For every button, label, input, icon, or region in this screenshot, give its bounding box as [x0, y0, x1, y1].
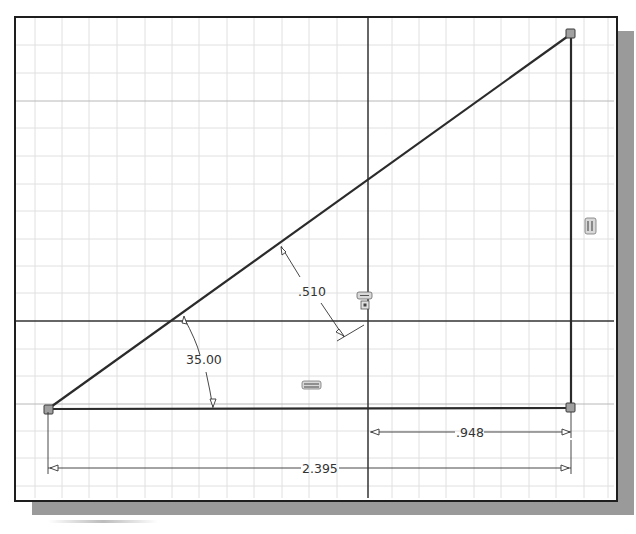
vertical-constraint-icon[interactable] — [585, 218, 596, 234]
dimension-arrowhead-icon — [561, 465, 569, 471]
dimension-arrowhead-icon — [371, 429, 379, 435]
offset-arrowhead-icon — [281, 247, 286, 255]
fix-constraint-icon[interactable] — [357, 292, 372, 309]
angle-arrowhead-icon — [210, 399, 216, 407]
sketch-axes — [16, 18, 614, 498]
angle-dimension-value[interactable]: 35.00 — [186, 352, 222, 367]
base-line[interactable] — [48, 408, 571, 409]
short-horizontal-dimension-value[interactable]: .948 — [456, 425, 484, 440]
sketch-canvas[interactable]: 35.00 .510 .948 2.395 — [0, 0, 636, 534]
vertex-point-bottom-right[interactable] — [566, 403, 575, 412]
vertex-point-top-right[interactable] — [566, 29, 575, 38]
sketch-drawing[interactable]: 35.00 .510 .948 2.395 — [0, 0, 636, 534]
sketch-grid — [16, 18, 614, 498]
vertex-point-bottom-left[interactable] — [44, 405, 53, 414]
overall-horizontal-dimension-value[interactable]: 2.395 — [302, 461, 338, 476]
dimension-arrowhead-icon — [50, 465, 58, 471]
dimension-arrowhead-icon — [562, 429, 570, 435]
angle-arrowhead-icon — [182, 316, 187, 324]
offset-dimension-value[interactable]: .510 — [298, 284, 326, 299]
horizontal-constraint-icon[interactable] — [302, 381, 321, 389]
